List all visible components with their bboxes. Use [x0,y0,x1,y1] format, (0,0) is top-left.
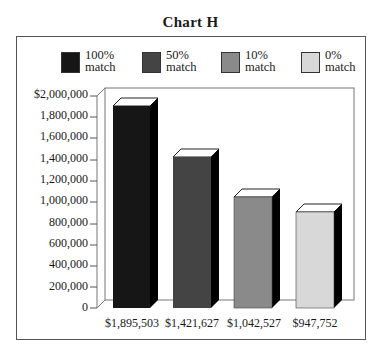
bar-10-match [234,189,280,308]
y-axis-ticks [90,96,97,308]
bar-50-match [173,149,219,308]
bar-value-label-50: $1,421,627 [157,316,227,331]
bar-100-match [113,98,158,308]
bar-value-label-0: $947,752 [280,316,350,331]
bar-value-label-10: $1,042,527 [219,316,289,331]
bar-0-match [296,204,342,308]
plot-area [0,0,381,354]
